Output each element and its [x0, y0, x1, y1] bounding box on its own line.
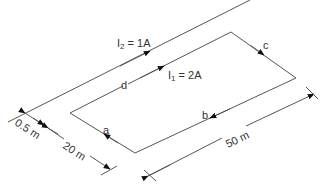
- side-d-label: d: [121, 80, 127, 91]
- long-wire: [8, 0, 250, 122]
- wire-current-label: I2 = 1A: [117, 38, 151, 51]
- side-c-label: c: [263, 40, 269, 51]
- side-c-arrow-icon: [250, 45, 264, 55]
- wire-current-arrow-icon: [120, 51, 150, 66]
- side-b-label: b: [202, 110, 208, 121]
- side-a-label: a: [103, 125, 109, 136]
- loop-current-label: I1 = 2A: [168, 70, 202, 83]
- diagram-canvas: [0, 0, 322, 184]
- side-b-arrow-icon: [210, 109, 230, 118]
- side-d-arrow-icon: [140, 66, 164, 78]
